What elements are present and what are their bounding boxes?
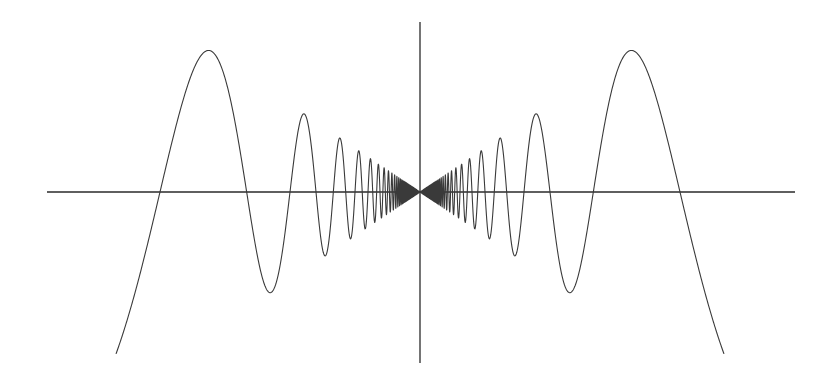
function-plot (0, 0, 831, 380)
curve-left-branch (116, 50, 420, 353)
plot-area (0, 0, 831, 380)
curve-right-branch (420, 50, 724, 353)
